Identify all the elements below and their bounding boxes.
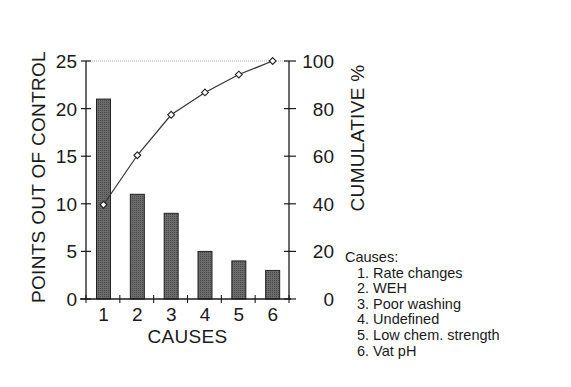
y2-tick-label: 60 [313,146,334,167]
x-tick-label: 4 [200,304,211,325]
bar-1 [97,99,111,299]
y2-tick-label: 0 [323,289,334,310]
y-axis-title: POINTS OUT OF CONTROL [28,51,49,303]
y2-tick-label: 80 [313,99,334,120]
axis-labels: 0510152025020406080100123456CAUSESPOINTS… [28,51,368,347]
y-tick-label: 0 [66,289,77,310]
bar-5 [232,261,246,299]
x-tick-label: 2 [132,304,143,325]
legend-item-3: 3. Poor washing [345,297,500,313]
bar-3 [164,213,178,299]
cumulative-point-5 [235,71,242,78]
y-tick-label: 25 [56,51,77,72]
cumulative-line-series [100,58,276,209]
legend-item-2: 2. WEH [345,281,500,297]
y-tick-label: 10 [56,194,77,215]
x-tick-label: 5 [234,304,245,325]
x-axis-title: CAUSES [148,326,228,347]
bar-4 [198,251,212,299]
legend-item-5: 5. Low chem. strength [345,328,500,344]
bar-series [97,99,280,299]
legend-item-6: 6. Vat pH [345,344,500,360]
axes [80,61,296,303]
y2-tick-label: 40 [313,194,334,215]
x-tick-label: 1 [98,304,109,325]
cumulative-point-4 [202,89,209,96]
y2-tick-label: 20 [313,241,334,262]
y-tick-label: 15 [56,146,77,167]
y-tick-label: 5 [66,241,77,262]
x-tick-label: 3 [166,304,177,325]
legend-item-1: 1. Rate changes [345,266,500,282]
y2-tick-label: 100 [302,51,334,72]
x-tick-label: 6 [267,304,278,325]
legend-item-4: 4. Undefined [345,312,500,328]
y-tick-label: 20 [56,99,77,120]
bar-6 [266,270,280,299]
legend-title: Causes: [345,250,500,266]
y2-axis-title: CUMULATIVE % [347,65,368,212]
bar-2 [130,194,144,299]
cumulative-point-6 [269,58,276,65]
legend: Causes: 1. Rate changes 2. WEH 3. Poor w… [345,250,500,359]
